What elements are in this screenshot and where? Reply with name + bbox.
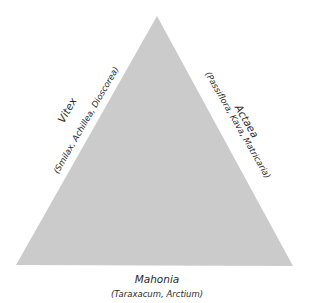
triangle-diagram xyxy=(0,0,314,303)
bottom-side-label: Mahonia xyxy=(107,273,207,285)
bottom-side-sublabel: (Taraxacum, Arctium) xyxy=(97,289,217,299)
